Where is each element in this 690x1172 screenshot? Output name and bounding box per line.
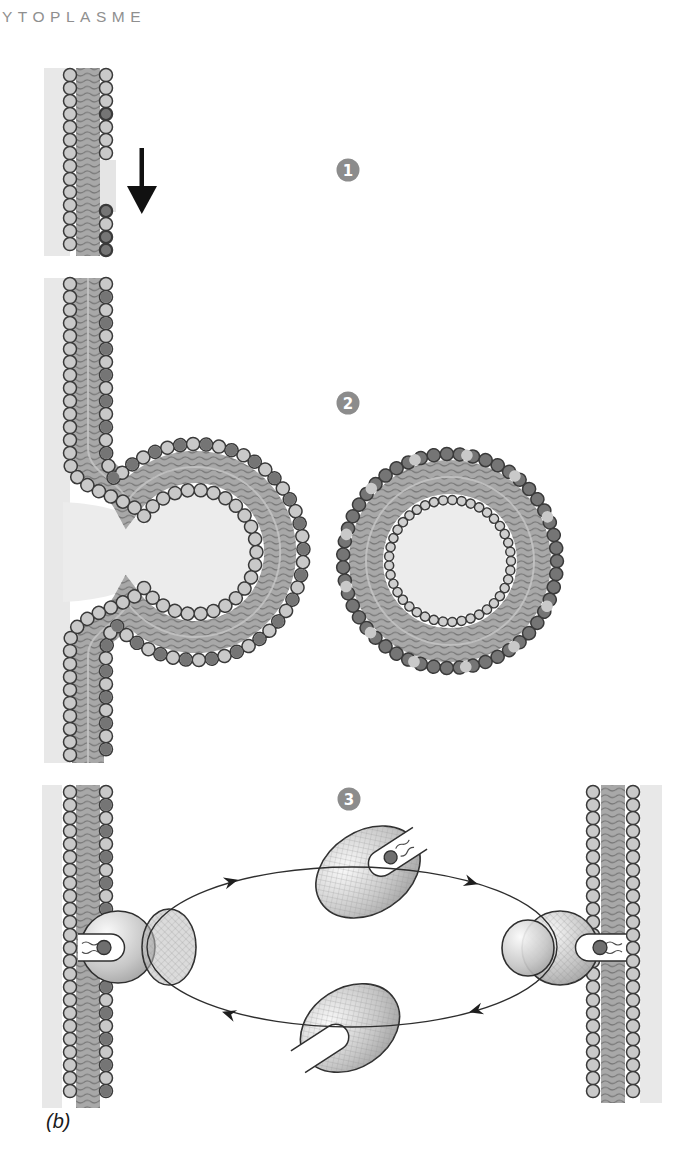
section-1-membrane — [44, 68, 116, 256]
down-arrow-icon — [127, 148, 157, 214]
panel-label-b: (b) — [46, 1110, 70, 1133]
step-3-badge: 3 — [338, 788, 361, 811]
svg-text:2: 2 — [343, 395, 353, 413]
free-lipid-vesicle — [343, 454, 557, 668]
cycle-arrowhead-icon — [220, 1006, 237, 1022]
cycle-arrowhead-icon — [223, 874, 240, 889]
figure-membrane-vesicle-diagram: YTOPLASME — [0, 0, 690, 1172]
svg-text:3: 3 — [344, 791, 354, 809]
section-2-budding-membrane — [44, 278, 303, 763]
svg-text:1: 1 — [343, 162, 353, 180]
transfer-protein-bottom-empty — [276, 966, 416, 1096]
transfer-protein-top-loaded — [299, 804, 443, 937]
step-1-badge: 1 — [337, 159, 360, 182]
cycle-arrowhead-icon — [463, 874, 480, 890]
bound-lipid-head — [97, 941, 111, 955]
step-2-badge: 2 — [337, 392, 360, 415]
diagram-canvas: 1 — [0, 0, 690, 1172]
transfer-protein-left — [78, 909, 196, 985]
bound-lipid-head — [593, 941, 607, 955]
cycle-arrowhead-icon — [467, 1003, 484, 1018]
